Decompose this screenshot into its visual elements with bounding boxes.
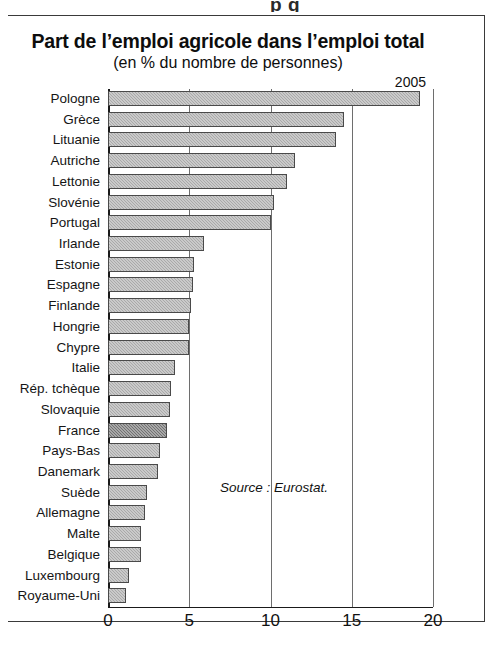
category-label-portugal: Portugal [50, 213, 100, 232]
bar-finlande [108, 298, 191, 313]
bar-row: Royaume-Uni [108, 586, 433, 608]
bar-row: Luxembourg [108, 566, 433, 588]
category-label-malte: Malte [67, 524, 100, 543]
category-label-royaume-uni: Royaume-Uni [17, 586, 100, 605]
bar-row: Finlande [108, 296, 433, 318]
category-label-estonie: Estonie [55, 255, 100, 274]
category-label-lituanie: Lituanie [53, 130, 100, 149]
bar-espagne [108, 277, 193, 292]
bar-r-p-tch-que [108, 381, 171, 396]
category-label-finlande: Finlande [48, 296, 100, 315]
bar-row: Lettonie [108, 172, 433, 194]
category-label-italie: Italie [71, 358, 100, 377]
category-label-allemagne: Allemagne [36, 503, 100, 522]
chart-subtitle: (en % du nombre de personnes) [8, 54, 448, 72]
category-label-su-de: Suède [61, 483, 100, 502]
category-label-espagne: Espagne [47, 275, 100, 294]
bar-irlande [108, 236, 204, 251]
bar-pologne [108, 91, 420, 106]
category-label-slovaquie: Slovaquie [41, 400, 100, 419]
x-tick-label-5: 5 [185, 611, 194, 631]
bar-row: Autriche [108, 151, 433, 173]
bar-danemark [108, 464, 158, 479]
bar-row: France [108, 421, 433, 443]
bar-slovaquie [108, 402, 170, 417]
category-label-luxembourg: Luxembourg [25, 566, 100, 585]
bar-row: Irlande [108, 234, 433, 256]
category-label-autriche: Autriche [50, 151, 100, 170]
bar-gr-ce [108, 112, 344, 127]
bar-row: Portugal [108, 213, 433, 235]
bar-lituanie [108, 132, 336, 147]
category-label-r-p-tch-que: Rép. tchèque [20, 379, 100, 398]
category-label-chypre: Chypre [56, 338, 100, 357]
bar-estonie [108, 257, 194, 272]
bar-row: Danemark [108, 462, 433, 484]
category-label-gr-ce: Grèce [63, 110, 100, 129]
bar-royaume-uni [108, 588, 126, 603]
bar-portugal [108, 215, 271, 230]
bar-row: Slovaquie [108, 400, 433, 422]
bar-row: Rép. tchèque [108, 379, 433, 401]
category-label-danemark: Danemark [38, 462, 100, 481]
chart-year-label: 2005 [395, 74, 426, 90]
bar-hongrie [108, 319, 189, 334]
bar-luxembourg [108, 568, 129, 583]
bar-lettonie [108, 174, 287, 189]
x-tick-label-0: 0 [103, 611, 112, 631]
x-tick-label-10: 10 [261, 611, 280, 631]
bar-pays-bas [108, 443, 160, 458]
bar-slov-nie [108, 195, 274, 210]
bar-row: Allemagne [108, 503, 433, 525]
bar-allemagne [108, 505, 145, 520]
bar-belgique [108, 547, 141, 562]
bar-italie [108, 360, 175, 375]
bar-row: Grèce [108, 110, 433, 132]
gridline-20 [433, 89, 434, 607]
bar-row: Espagne [108, 275, 433, 297]
bar-malte [108, 526, 141, 541]
bar-row: Pologne [108, 89, 433, 111]
bar-row: Italie [108, 358, 433, 380]
bar-row: Slovénie [108, 193, 433, 215]
chart-plot-area: PologneGrèceLituanieAutricheLettonieSlov… [108, 89, 433, 607]
category-label-france: France [58, 421, 100, 440]
bar-row: Suède [108, 483, 433, 505]
bar-row: Malte [108, 524, 433, 546]
category-label-irlande: Irlande [59, 234, 100, 253]
bar-su-de [108, 485, 147, 500]
category-label-hongrie: Hongrie [53, 317, 100, 336]
bar-row: Belgique [108, 545, 433, 567]
bar-row: Estonie [108, 255, 433, 277]
category-label-lettonie: Lettonie [52, 172, 100, 191]
category-label-pologne: Pologne [50, 89, 100, 108]
category-label-slov-nie: Slovénie [48, 193, 100, 212]
bar-row: Pays-Bas [108, 441, 433, 463]
page-top-bleed-text: p g [270, 0, 490, 12]
bar-row: Hongrie [108, 317, 433, 339]
bar-france [108, 423, 167, 438]
chart-figure-frame: Part de l’emploi agricole dans l’emploi … [8, 15, 485, 622]
chart-title: Part de l’emploi agricole dans l’emploi … [8, 30, 448, 53]
x-tick-label-15: 15 [342, 611, 361, 631]
bar-autriche [108, 153, 295, 168]
bar-chypre [108, 340, 189, 355]
bar-row: Chypre [108, 338, 433, 360]
x-tick-label-20: 20 [424, 611, 443, 631]
category-label-pays-bas: Pays-Bas [42, 441, 100, 460]
category-label-belgique: Belgique [47, 545, 100, 564]
bar-row: Lituanie [108, 130, 433, 152]
